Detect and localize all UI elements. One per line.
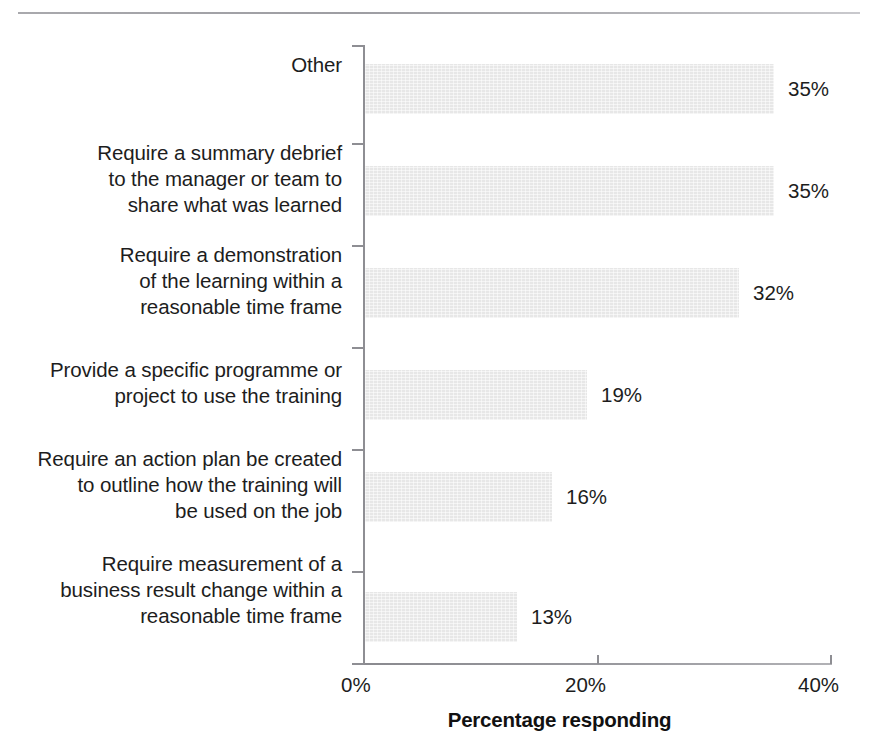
bar-summary-debrief — [365, 166, 774, 216]
bar-action-plan — [365, 472, 552, 522]
bar-measurement — [365, 592, 517, 642]
category-label-line: be used on the job — [12, 498, 342, 524]
x-axis-tick — [597, 655, 599, 664]
bar-specific-programme — [365, 370, 587, 420]
category-label: Require a demonstration of the learning … — [12, 242, 342, 320]
bar-demonstration — [365, 268, 739, 318]
bar-row: Require measurement of a business result… — [0, 548, 881, 650]
x-axis-tick — [830, 655, 832, 664]
category-label-line: Require a summary debrief — [12, 140, 342, 166]
x-axis-tick-label: 40% — [798, 672, 839, 698]
x-axis-tick — [363, 655, 365, 664]
category-label-line: to the manager or team to — [12, 166, 342, 192]
category-label: Require an action plan be created to out… — [12, 446, 342, 524]
bar-value-label: 35% — [788, 64, 829, 114]
x-axis-title: Percentage responding — [0, 708, 881, 732]
bar-value-label: 32% — [753, 268, 794, 318]
bar-row: Provide a specific programme or project … — [0, 344, 881, 446]
category-label-line: Require an action plan be created — [12, 446, 342, 472]
category-label-line: to outline how the training will — [12, 472, 342, 498]
x-axis-tick-label: 0% — [341, 672, 371, 698]
bar-value-label: 19% — [601, 370, 642, 420]
bar-row: Other 35% — [0, 38, 881, 140]
plot-area: Other 35% Require a summary debrief to t… — [0, 0, 881, 750]
bar-chart-figure: Other 35% Require a summary debrief to t… — [0, 0, 881, 750]
bar-value-label: 35% — [788, 166, 829, 216]
bar-value-label: 16% — [566, 472, 607, 522]
category-label: Provide a specific programme or project … — [12, 357, 342, 409]
x-axis-tick-label: 20% — [565, 672, 606, 698]
category-label-line: share what was learned — [12, 192, 342, 218]
x-axis-title-text: Percentage responding — [448, 708, 672, 732]
bar-row: Require a summary debrief to the manager… — [0, 140, 881, 242]
category-label-line: of the learning within a — [12, 268, 342, 294]
category-label-line: Other — [12, 52, 342, 78]
category-label-line: reasonable time frame — [12, 603, 342, 629]
category-label-line: Require measurement of a — [12, 551, 342, 577]
category-label: Require measurement of a business result… — [12, 551, 342, 629]
bar-row: Require an action plan be created to out… — [0, 446, 881, 548]
category-label-line: business result change within a — [12, 577, 342, 603]
category-label: Require a summary debrief to the manager… — [12, 140, 342, 218]
bar-value-label: 13% — [531, 592, 572, 642]
category-label: Other — [12, 52, 342, 78]
category-label-line: Provide a specific programme or — [12, 357, 342, 383]
bar-row: Require a demonstration of the learning … — [0, 242, 881, 344]
category-label-line: project to use the training — [12, 383, 342, 409]
category-label-line: reasonable time frame — [12, 294, 342, 320]
bar-other — [365, 64, 774, 114]
category-label-line: Require a demonstration — [12, 242, 342, 268]
